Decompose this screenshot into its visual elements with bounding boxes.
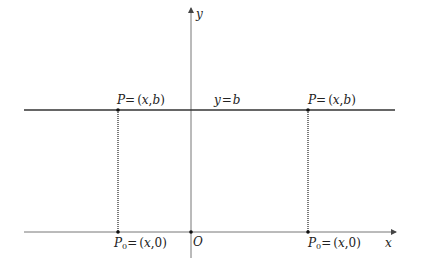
y-axis-label: y xyxy=(195,7,203,21)
point-P0-left-label: P0=(x,0) xyxy=(113,236,167,251)
origin-label: O xyxy=(193,235,203,249)
point-P-right xyxy=(306,108,310,112)
point-P0-right-label: P0=(x,0) xyxy=(307,236,361,251)
x-axis-label: x xyxy=(385,236,392,250)
point-P0-left xyxy=(116,230,120,234)
coordinate-diagram: y x O y=b P=(x,b) P=(x,b) P0=(x,0) P0=(x… xyxy=(0,0,421,271)
point-P0-right xyxy=(306,230,310,234)
point-P-right-label: P=(x,b) xyxy=(307,93,356,107)
line-label: y=b xyxy=(213,93,241,107)
point-P-left-label: P=(x,b) xyxy=(116,93,165,107)
origin-point xyxy=(189,230,193,234)
point-P-left xyxy=(116,108,120,112)
